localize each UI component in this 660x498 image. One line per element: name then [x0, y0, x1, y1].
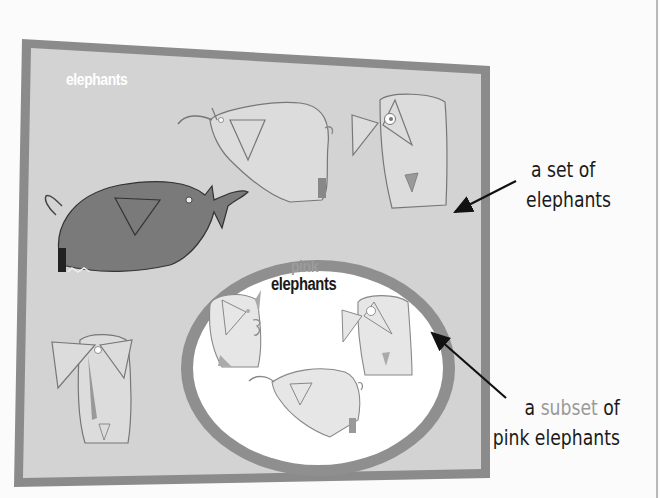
subset-annotation-line2: pink elephants	[493, 423, 620, 453]
outer-set-label: elephants	[66, 70, 127, 90]
pink-elephant-left-icon	[210, 290, 262, 367]
subset-annotation-line1: a subset of	[510, 393, 620, 423]
subset-annotation-prefix: a	[525, 396, 541, 420]
subset-annotation-highlight: subset	[541, 396, 598, 420]
subset-annotation-suffix: of	[598, 396, 620, 420]
subset-label-pink: pink	[291, 258, 318, 275]
set-annotation-line2: elephants	[526, 185, 611, 215]
subset-annotation: a subset of pink elephants	[510, 393, 620, 453]
subset-label-elephants: elephants	[271, 275, 336, 293]
set-annotation-line1: a set of	[531, 155, 611, 185]
set-annotation: a set of elephants	[531, 155, 611, 215]
